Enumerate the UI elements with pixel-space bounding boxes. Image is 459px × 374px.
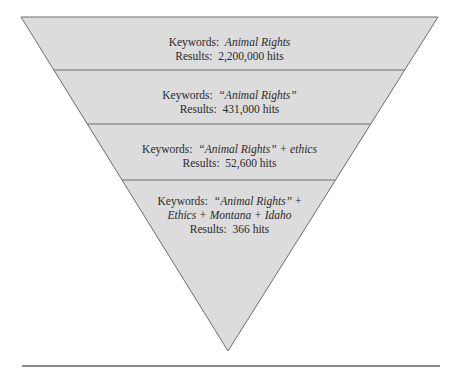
keywords-value: “Animal Rights”	[214, 195, 292, 207]
level-4: Keywords: “Animal Rights” + Ethics + Mon…	[0, 194, 459, 236]
results-label: Results:	[183, 157, 220, 169]
results-value: 2,200,000 hits	[218, 50, 284, 62]
results-label: Results:	[175, 50, 212, 62]
keywords-extra: +	[295, 195, 302, 207]
results-value: 366 hits	[233, 223, 270, 235]
results-label: Results:	[180, 103, 217, 115]
keywords-value: “Animal Rights”	[218, 89, 296, 101]
results-value: 52,600 hits	[225, 157, 276, 169]
keywords-label: Keywords:	[158, 195, 208, 207]
results-label: Results:	[190, 223, 227, 235]
level-3: Keywords: “Animal Rights” + ethics Resul…	[0, 142, 459, 170]
results-value: 431,000 hits	[222, 103, 279, 115]
keywords-extra: + ethics	[279, 143, 316, 155]
funnel-triangle	[21, 17, 438, 351]
keywords-value: “Animal Rights”	[198, 143, 276, 155]
level-1: Keywords: Animal Rights Results: 2,200,0…	[0, 35, 459, 63]
keywords-label: Keywords:	[162, 89, 212, 101]
keywords-value: Animal Rights	[225, 36, 291, 48]
keywords-line2: Ethics + Montana + Idaho	[167, 209, 291, 221]
level-2: Keywords: “Animal Rights” Results: 431,0…	[0, 88, 459, 116]
keywords-label: Keywords:	[142, 143, 192, 155]
bottom-rule	[22, 365, 440, 367]
keywords-label: Keywords:	[169, 36, 219, 48]
